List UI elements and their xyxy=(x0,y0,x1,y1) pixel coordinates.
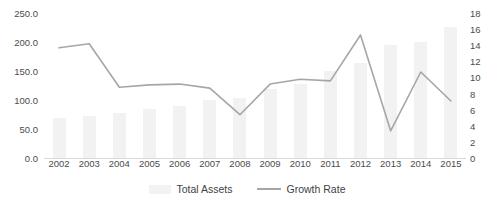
legend-bar-swatch-icon xyxy=(149,185,171,194)
y-axis-left-tick: 150.0 xyxy=(0,67,38,77)
x-axis-tick-label: 2011 xyxy=(314,159,346,169)
legend-item-label: Growth Rate xyxy=(287,184,346,195)
x-axis-tick-label: 2004 xyxy=(103,159,135,169)
y-axis-right-tick: 10 xyxy=(470,73,494,83)
x-axis-tick-label: 2012 xyxy=(345,159,377,169)
legend-item-label: Total Assets xyxy=(177,184,233,195)
y-axis-right-tick: 4 xyxy=(470,122,494,132)
y-axis-left-tick: 250.0 xyxy=(0,9,38,19)
x-axis-tick-label: 2015 xyxy=(435,159,467,169)
legend-line-swatch-icon xyxy=(257,188,281,190)
growth-rate-polyline xyxy=(59,35,451,131)
chart-legend: Total AssetsGrowth Rate xyxy=(0,184,494,195)
y-axis-right-tick: 14 xyxy=(470,41,494,51)
x-axis-tick-label: 2010 xyxy=(284,159,316,169)
x-axis-tick-label: 2006 xyxy=(164,159,196,169)
x-axis-tick-label: 2009 xyxy=(254,159,286,169)
x-axis-tick-label: 2007 xyxy=(194,159,226,169)
y-axis-left-tick: 100.0 xyxy=(0,96,38,106)
line-series-growth-rate xyxy=(44,14,466,159)
x-axis-tick-label: 2003 xyxy=(73,159,105,169)
y-axis-right-tick: 2 xyxy=(470,138,494,148)
x-axis-tick-label: 2014 xyxy=(405,159,437,169)
y-axis-right-tick: 12 xyxy=(470,57,494,67)
x-axis-tick-label: 2008 xyxy=(224,159,256,169)
plot-area xyxy=(44,14,466,159)
y-axis-right-tick: 0 xyxy=(470,154,494,164)
x-axis-tick-label: 2005 xyxy=(134,159,166,169)
y-axis-right-tick: 8 xyxy=(470,90,494,100)
y-axis-left-tick: 50.0 xyxy=(0,125,38,135)
chart-container: 0.050.0100.0150.0200.0250.0 024681012141… xyxy=(0,0,494,212)
x-axis-tick-label: 2002 xyxy=(43,159,75,169)
legend-item[interactable]: Growth Rate xyxy=(257,184,346,195)
y-axis-left-tick: 0.0 xyxy=(0,154,38,164)
legend-item[interactable]: Total Assets xyxy=(149,184,233,195)
x-axis-tick-label: 2013 xyxy=(375,159,407,169)
y-axis-right-tick: 6 xyxy=(470,106,494,116)
y-axis-right-tick: 18 xyxy=(470,9,494,19)
y-axis-right-tick: 16 xyxy=(470,25,494,35)
y-axis-left-tick: 200.0 xyxy=(0,38,38,48)
